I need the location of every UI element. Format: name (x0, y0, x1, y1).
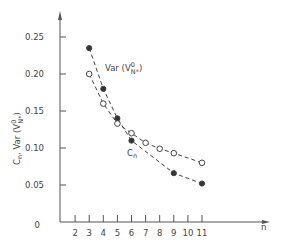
x-tick-label: 8 (157, 228, 162, 238)
x-tick-label: 3 (86, 228, 91, 238)
x-tick-label: 6 (129, 228, 134, 238)
open-circle-marker-icon (86, 71, 92, 77)
x-tick-label: 9 (171, 228, 176, 238)
axes (58, 11, 270, 224)
filled-circle-marker-icon (171, 171, 176, 176)
cn-series-label: Cn (127, 148, 137, 160)
var-series-label: Var (V0N*) (105, 61, 142, 76)
x-tick-label: 7 (143, 228, 148, 238)
x-tick-label: 5 (115, 228, 120, 238)
y-axis-arrow-icon (58, 11, 62, 20)
filled-circle-marker-icon (199, 181, 204, 186)
open-circle-marker-icon (115, 121, 121, 127)
y-tick-label: 0.10 (25, 143, 44, 153)
open-circle-marker-icon (101, 101, 107, 107)
open-circle-marker-icon (157, 146, 163, 152)
filled-circle-marker-icon (115, 116, 120, 121)
y-tick-label: 0.20 (25, 69, 44, 79)
x-axis-title: n (261, 222, 266, 232)
y-tick-label: 0 (35, 220, 40, 230)
y-tick-label: 0.05 (25, 180, 44, 190)
chart: 00.050.100.150.200.25 234567891011 Cn, V… (0, 0, 284, 247)
filled-circle-marker-icon (129, 138, 134, 143)
x-tick-label: 2 (72, 228, 77, 238)
open-circle-marker-icon (129, 130, 135, 136)
filled-circle-marker-icon (101, 86, 106, 91)
open-circle-marker-icon (171, 150, 177, 156)
open-circle-marker-icon (143, 140, 149, 146)
x-tick-label: 10 (182, 228, 193, 238)
series-line (89, 74, 202, 163)
x-tick-label: 11 (197, 228, 208, 238)
y-tick-label: 0.25 (25, 32, 44, 42)
filled-circle-marker-icon (87, 46, 92, 51)
x-tick-label: 4 (101, 228, 106, 238)
y-tick-label: 0.15 (25, 106, 44, 116)
x-axis-ticks: 234567891011 (72, 215, 207, 238)
y-axis-title: Cn, Var (V0N*) (10, 112, 25, 165)
open-circle-marker-icon (199, 160, 205, 166)
